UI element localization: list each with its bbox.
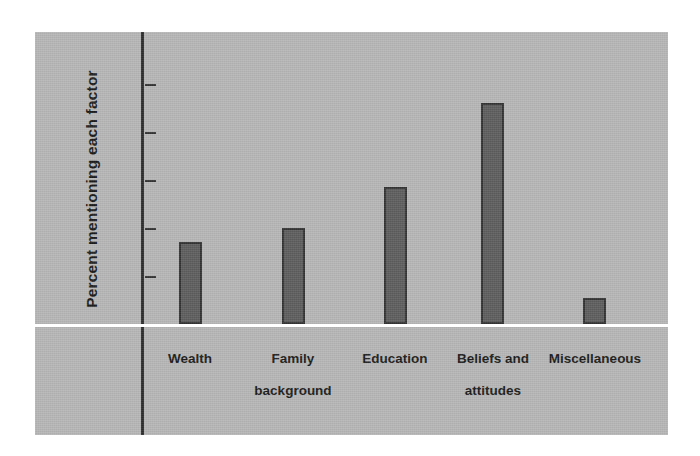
x-category-label-wealth: Wealth	[130, 335, 250, 367]
y-axis-title: Percent mentioning each factor	[83, 64, 101, 314]
x-category-label-family-background-line2: background	[254, 383, 331, 398]
x-category-label-family-background-line1: Family	[272, 351, 315, 366]
bar-miscellaneous	[583, 298, 606, 324]
chart-panel: 50 40 30 20 10 Percent mentioning each f…	[35, 32, 668, 435]
chart-figure: 50 40 30 20 10 Percent mentioning each f…	[0, 0, 700, 456]
axis-baseline	[35, 324, 668, 327]
x-category-label-miscellaneous: Miscellaneous	[535, 335, 655, 367]
y-tick-mark-50	[145, 84, 156, 86]
x-category-label-beliefs-and-attitudes-line2: attitudes	[465, 383, 521, 398]
bar-beliefs-and-attitudes	[481, 103, 504, 324]
bar-wealth	[179, 242, 202, 324]
x-category-label-miscellaneous-line1: Miscellaneous	[549, 351, 641, 366]
y-tick-mark-30	[145, 180, 156, 182]
x-category-label-education-line1: Education	[362, 351, 427, 366]
plot-area: 50 40 30 20 10 Percent mentioning each f…	[35, 32, 668, 435]
y-tick-mark-10	[145, 276, 156, 278]
y-tick-mark-40	[145, 132, 156, 134]
bar-family-background	[282, 228, 305, 324]
x-category-label-wealth-line1: Wealth	[168, 351, 212, 366]
y-tick-mark-20	[145, 228, 156, 230]
y-axis-line	[141, 32, 144, 435]
bar-education	[384, 187, 407, 324]
x-category-label-beliefs-and-attitudes-line1: Beliefs and	[457, 351, 529, 366]
